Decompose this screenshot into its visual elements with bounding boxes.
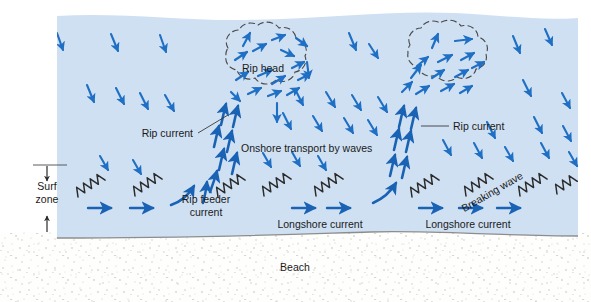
beach-label: Beach [280, 261, 310, 273]
rip-current-diagram: Beach [0, 0, 591, 302]
longshore-current-left-label: Longshore current [277, 218, 362, 230]
surf-zone-label-line1: Surf [37, 180, 56, 192]
rip-head-label: Rip head [242, 62, 284, 74]
rip-current-left-label: Rip current [142, 127, 193, 139]
rip-feeder-label-line1: Rip feeder [182, 193, 231, 205]
sandy-beach: Beach [0, 232, 591, 302]
longshore-current-right-label: Longshore current [425, 218, 510, 230]
surf-zone-label-line2: zone [36, 193, 59, 205]
rip-feeder-label-line2: current [190, 206, 223, 218]
onshore-transport-label: Onshore transport by waves [241, 142, 372, 154]
rip-current-right-label: Rip current [453, 120, 504, 132]
diagram-canvas: Beach [0, 0, 591, 302]
